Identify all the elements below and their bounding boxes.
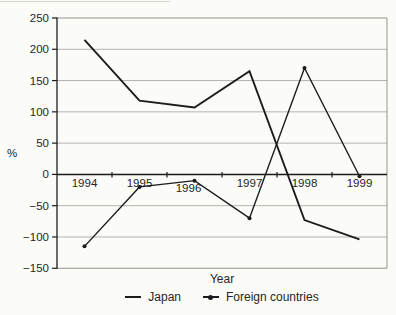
y-tick-label: 250 <box>30 12 49 24</box>
legend-item-foreign-countries: Foreign countries <box>203 290 319 304</box>
x-tick-label: 1998 <box>292 177 318 189</box>
marker-dot <box>358 174 362 178</box>
x-tick-label: 1996 <box>176 182 202 194</box>
legend-label-japan: Japan <box>148 290 181 304</box>
y-tick-label: 0 <box>43 168 49 180</box>
y-tick-label: 150 <box>30 75 49 87</box>
y-axis-title: % <box>7 147 17 159</box>
foreign-countries-marker-swatch-icon <box>203 296 219 298</box>
marker-dot <box>303 66 307 70</box>
x-axis-title: Year <box>57 272 387 286</box>
y-tick-label: −150 <box>23 262 49 274</box>
marker-dot <box>248 216 252 220</box>
legend-item-japan: Japan <box>125 290 181 304</box>
marker-dot <box>138 185 142 189</box>
japan-line-swatch-icon <box>125 296 141 298</box>
series-line-foreign-countries <box>85 68 360 246</box>
x-tick-label: 1999 <box>347 177 373 189</box>
y-tick-label: 100 <box>30 106 49 118</box>
y-tick-label: −50 <box>29 200 49 212</box>
chart-legend: Japan Foreign countries <box>57 290 387 304</box>
marker-dot <box>193 179 197 183</box>
y-tick-label: −100 <box>23 231 49 243</box>
plot-area: 250200150100500−50−100−15019941995199619… <box>0 0 396 315</box>
line-chart-figure: 250200150100500−50−100−15019941995199619… <box>0 0 396 315</box>
legend-label-foreign-countries: Foreign countries <box>226 290 319 304</box>
series-line-japan <box>85 40 360 240</box>
x-tick-label: 1994 <box>72 177 98 189</box>
y-tick-label: 200 <box>30 43 49 55</box>
marker-dot <box>83 244 87 248</box>
x-tick-label: 1997 <box>237 177 263 189</box>
y-tick-label: 50 <box>36 137 49 149</box>
dot-marker-icon <box>208 295 213 300</box>
